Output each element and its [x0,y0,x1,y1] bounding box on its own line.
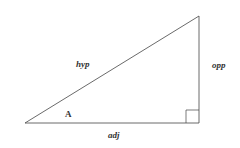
right-angle-marker [186,110,199,123]
adjacent-label: adj [108,130,120,140]
opposite-label: opp [212,60,226,70]
angle-label: A [65,109,72,119]
right-triangle [25,16,199,123]
hypotenuse-label: hyp [76,59,90,69]
triangle-diagram: hyp opp adj A [0,0,240,148]
